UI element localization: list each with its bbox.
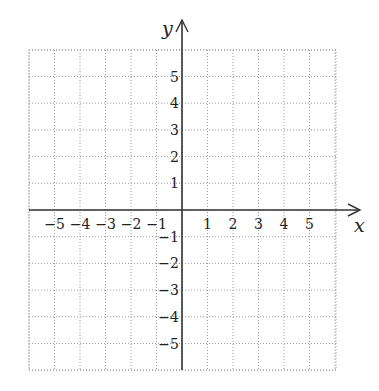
x-tick-label: −3	[95, 216, 116, 232]
y-tick-label: −4	[158, 309, 179, 325]
axes	[29, 20, 360, 370]
x-tick-label: −4	[70, 216, 91, 232]
x-tick-labels: −5−4−3−2−112345	[44, 216, 314, 232]
x-tick-label: 3	[254, 216, 263, 232]
y-tick-label: 2	[170, 149, 179, 165]
x-tick-label: −2	[121, 216, 142, 232]
x-tick-label: −5	[44, 216, 65, 232]
coordinate-plane: −5−4−3−2−112345 −5−4−3−2−112345 x y	[0, 0, 379, 391]
y-tick-label: −1	[158, 229, 179, 245]
y-tick-label: 3	[170, 122, 179, 138]
y-axis-label: y	[161, 17, 173, 39]
y-tick-label: 4	[170, 95, 179, 111]
y-tick-label: −2	[158, 255, 179, 271]
x-tick-label: 1	[203, 216, 212, 232]
x-tick-label: 4	[280, 216, 289, 232]
x-axis-label: x	[354, 214, 365, 236]
y-tick-label: −5	[158, 336, 179, 352]
x-tick-label: 2	[229, 216, 238, 232]
y-tick-label: −3	[158, 282, 179, 298]
x-tick-label: 5	[305, 216, 314, 232]
y-tick-label: 1	[170, 175, 179, 191]
y-tick-label: 5	[170, 69, 179, 85]
